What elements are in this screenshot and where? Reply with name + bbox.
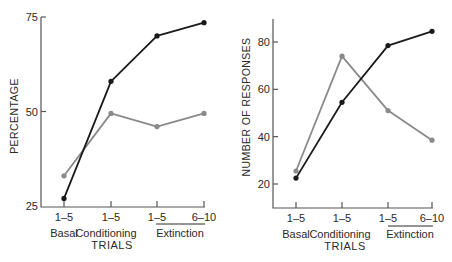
phase-label-conditioning: Conditioning [309, 228, 370, 240]
phase-label-conditioning: Conditioning [75, 227, 136, 239]
y-tick-label: 60 [258, 83, 270, 95]
y-tick-label: 40 [258, 131, 270, 143]
data-point-marker [293, 168, 298, 173]
data-point-marker [61, 173, 66, 178]
data-point-marker [339, 100, 344, 105]
y-tick-label: 25 [26, 200, 38, 212]
y-tick-label: 80 [258, 36, 270, 48]
y-axis-title: PERCENTAGE [8, 78, 20, 154]
data-point-marker [429, 29, 434, 34]
series-line [296, 31, 432, 178]
phase-label-basal: Basal [282, 228, 310, 240]
data-point-marker [61, 196, 66, 201]
x-tick-label: 1–5 [333, 212, 351, 224]
y-axis-title: NUMBER OF RESPONSES [240, 38, 252, 177]
series-line [296, 56, 432, 171]
axis-lines [41, 17, 205, 207]
data-point-marker [108, 111, 113, 116]
series-black-series [61, 20, 206, 201]
data-point-marker [154, 33, 159, 38]
responses-chart: 20406080NUMBER OF RESPONSES1–51–51–56–10… [240, 19, 444, 252]
x-tick-label: 1–5 [102, 211, 120, 223]
phase-label-basal: Basal [50, 227, 78, 239]
charts-canvas: 255075PERCENTAGE1–51–51–56–10BasalCondit… [0, 0, 452, 262]
data-point-marker [201, 20, 206, 25]
phase-label-extinction: Extinction [386, 228, 434, 240]
data-point-marker [201, 111, 206, 116]
x-tick-label: 1–5 [287, 212, 305, 224]
x-axis-title: TRIALS [91, 239, 133, 251]
series-gray-series [61, 111, 206, 179]
series-gray-series [293, 54, 434, 174]
data-point-marker [293, 176, 298, 181]
y-tick-label: 50 [26, 106, 38, 118]
data-point-marker [429, 138, 434, 143]
x-tick-label: 1–5 [379, 212, 397, 224]
x-tick-label: 6–10 [192, 211, 216, 223]
data-point-marker [339, 54, 344, 59]
data-point-marker [108, 79, 113, 84]
series-black-series [293, 29, 434, 181]
phase-label-extinction: Extinction [156, 227, 204, 239]
x-tick-label: 1–5 [148, 211, 166, 223]
data-point-marker [154, 124, 159, 129]
series-line [64, 23, 204, 199]
data-point-marker [385, 108, 390, 113]
x-axis-title: TRIALS [324, 240, 366, 252]
y-tick-label: 20 [258, 178, 270, 190]
x-tick-label: 6–10 [420, 212, 444, 224]
data-point-marker [385, 43, 390, 48]
x-tick-label: 1–5 [55, 211, 73, 223]
percentage-chart: 255075PERCENTAGE1–51–51–56–10BasalCondit… [8, 11, 216, 251]
y-tick-label: 75 [26, 11, 38, 23]
